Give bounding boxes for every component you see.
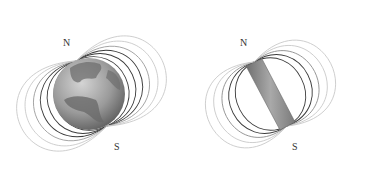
bar-magnet — [246, 59, 295, 130]
earth-north-label: N — [63, 37, 70, 48]
magnetic-field-diagram: N S N S — [0, 0, 366, 192]
earth-south-label: S — [114, 141, 120, 152]
earth-globe — [53, 58, 125, 130]
diagram-canvas: N S N S — [0, 0, 366, 192]
magnet-south-label: S — [292, 141, 298, 152]
magnet-north-label: N — [240, 37, 247, 48]
